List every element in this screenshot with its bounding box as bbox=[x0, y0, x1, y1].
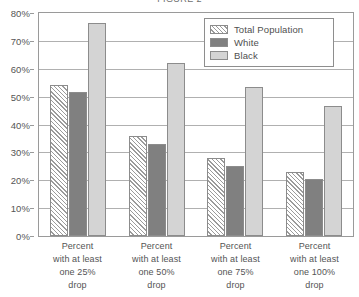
x-axis-label-line: drop bbox=[196, 279, 275, 292]
x-axis: Percentwith at leastone 25%dropPercentwi… bbox=[38, 240, 354, 296]
y-tick-mark bbox=[30, 13, 34, 14]
legend-swatch-icon bbox=[210, 25, 228, 34]
y-tick-label: 60% bbox=[11, 63, 30, 74]
bar-white bbox=[69, 92, 87, 236]
chart-title: FIGURE 2 bbox=[0, 0, 359, 4]
x-axis-label-line: with at least bbox=[196, 253, 275, 266]
bar-black bbox=[167, 63, 185, 236]
legend-label: White bbox=[234, 37, 259, 48]
bar-total bbox=[286, 172, 304, 236]
y-tick-label: 10% bbox=[11, 203, 30, 214]
y-tick-label: 70% bbox=[11, 35, 30, 46]
bar-white bbox=[305, 179, 323, 236]
x-axis-label-line: one 100% bbox=[275, 266, 354, 279]
bar-group bbox=[39, 13, 118, 236]
y-tick-mark bbox=[30, 69, 34, 70]
y-tick-mark bbox=[30, 41, 34, 42]
chart-legend: Total PopulationWhiteBlack bbox=[204, 18, 334, 67]
bar-chart: FIGURE 2 0%10%20%30%40%50%60%70%80% Tota… bbox=[0, 0, 359, 297]
x-axis-label-line: one 75% bbox=[196, 266, 275, 279]
y-tick-label: 20% bbox=[11, 175, 30, 186]
x-axis-label-line: drop bbox=[117, 279, 196, 292]
y-tick-mark bbox=[30, 152, 34, 153]
y-tick-mark bbox=[30, 208, 34, 209]
y-tick-label: 80% bbox=[11, 8, 30, 19]
y-tick-mark bbox=[30, 180, 34, 181]
x-axis-label-line: drop bbox=[38, 279, 117, 292]
x-axis-label: Percentwith at leastone 50%drop bbox=[117, 240, 196, 292]
x-axis-label: Percentwith at leastone 25%drop bbox=[38, 240, 117, 292]
bar-white bbox=[226, 166, 244, 236]
legend-item-white[interactable]: White bbox=[210, 36, 327, 49]
legend-label: Total Population bbox=[234, 24, 303, 35]
x-axis-label-line: drop bbox=[275, 279, 354, 292]
x-axis-label: Percentwith at leastone 100%drop bbox=[275, 240, 354, 292]
x-axis-label-line: with at least bbox=[275, 253, 354, 266]
x-axis-label-line: Percent bbox=[38, 240, 117, 253]
y-tick-mark bbox=[30, 125, 34, 126]
x-axis-label-line: with at least bbox=[117, 253, 196, 266]
x-axis-label-line: one 25% bbox=[38, 266, 117, 279]
x-axis-label-line: with at least bbox=[38, 253, 117, 266]
legend-swatch-icon bbox=[210, 38, 228, 47]
bar-total bbox=[50, 85, 68, 236]
bar-total bbox=[207, 158, 225, 236]
x-axis-label-line: one 50% bbox=[117, 266, 196, 279]
x-axis-label-line: Percent bbox=[275, 240, 354, 253]
legend-swatch-icon bbox=[210, 51, 228, 60]
legend-item-total[interactable]: Total Population bbox=[210, 23, 327, 36]
bar-black bbox=[324, 106, 342, 236]
y-tick-label: 30% bbox=[11, 147, 30, 158]
bar-white bbox=[148, 144, 166, 236]
y-tick-label: 40% bbox=[11, 119, 30, 130]
legend-item-black[interactable]: Black bbox=[210, 49, 327, 62]
y-tick-label: 50% bbox=[11, 91, 30, 102]
y-axis: 0%10%20%30%40%50%60%70%80% bbox=[0, 12, 34, 237]
legend-label: Black bbox=[234, 50, 258, 61]
x-axis-label: Percentwith at leastone 75%drop bbox=[196, 240, 275, 292]
y-tick-label: 0% bbox=[16, 231, 30, 242]
bar-total bbox=[129, 136, 147, 236]
y-tick-mark bbox=[30, 97, 34, 98]
bar-black bbox=[88, 23, 106, 236]
x-axis-label-line: Percent bbox=[117, 240, 196, 253]
bar-group bbox=[118, 13, 197, 236]
bar-black bbox=[245, 87, 263, 236]
y-tick-mark bbox=[30, 236, 34, 237]
x-axis-label-line: Percent bbox=[196, 240, 275, 253]
